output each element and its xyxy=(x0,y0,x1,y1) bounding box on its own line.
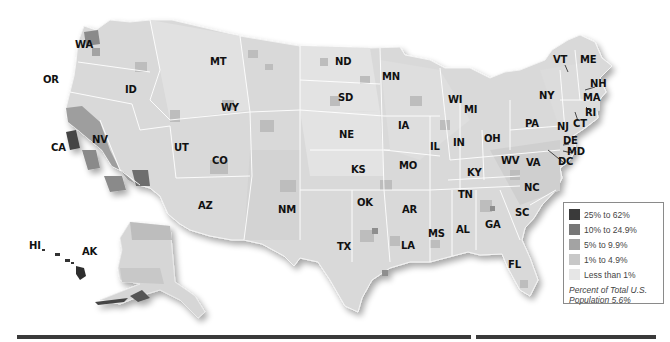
legend-item: 10% to 24.9% xyxy=(569,222,659,237)
state-label-ne: NE xyxy=(339,129,354,140)
state-label-ny: NY xyxy=(539,90,554,101)
state-label-mn: MN xyxy=(382,71,400,82)
state-label-va: VA xyxy=(526,157,540,168)
state-label-oh: OH xyxy=(484,133,500,144)
state-label-la: LA xyxy=(401,240,415,251)
legend-label: 25% to 62% xyxy=(584,210,630,220)
legend-swatch xyxy=(569,209,580,220)
state-label-sc: SC xyxy=(515,207,529,218)
state-label-wv: WV xyxy=(501,155,519,166)
state-label-mi: MI xyxy=(464,104,477,115)
legend-item: Less than 1% xyxy=(569,267,659,282)
legend-item: 1% to 4.9% xyxy=(569,252,659,267)
state-label-ok: OK xyxy=(357,197,373,208)
state-label-ca: CA xyxy=(51,142,66,153)
state-label-mt: MT xyxy=(210,56,226,67)
state-label-hi: HI xyxy=(29,240,41,251)
state-label-tx: TX xyxy=(337,241,351,252)
state-label-or: OR xyxy=(43,74,59,85)
hawaii xyxy=(42,249,86,280)
state-label-fl: FL xyxy=(508,259,521,270)
legend-label: Less than 1% xyxy=(584,270,636,280)
alaska xyxy=(95,222,205,318)
state-label-mo: MO xyxy=(399,160,417,171)
state-label-ky: KY xyxy=(467,167,482,178)
bottom-rule xyxy=(17,335,471,339)
state-label-tn: TN xyxy=(458,189,473,200)
state-label-nc: NC xyxy=(524,182,539,193)
state-label-vt: VT xyxy=(553,54,567,65)
state-label-in: IN xyxy=(453,137,465,148)
state-label-me: ME xyxy=(580,54,596,65)
legend-label: 10% to 24.9% xyxy=(584,225,637,235)
state-label-az: AZ xyxy=(198,200,213,211)
state-label-ks: KS xyxy=(351,164,366,175)
state-label-ma: MA xyxy=(583,92,600,103)
legend-note: Percent of Total U.S. Population 5.6% xyxy=(569,285,659,305)
state-label-ms: MS xyxy=(428,228,445,239)
state-label-ri: RI xyxy=(585,107,596,118)
legend: 25% to 62%10% to 24.9%5% to 9.9%1% to 4.… xyxy=(563,202,664,304)
legend-swatch xyxy=(569,254,580,265)
state-label-id: ID xyxy=(125,84,137,95)
legend-item: 5% to 9.9% xyxy=(569,237,659,252)
state-label-wa: WA xyxy=(75,39,93,50)
state-label-dc: DC xyxy=(558,156,573,167)
legend-label: 5% to 9.9% xyxy=(584,240,627,250)
legend-swatch xyxy=(569,224,580,235)
state-label-ia: IA xyxy=(398,120,409,131)
state-label-nd: ND xyxy=(335,56,351,67)
state-label-il: IL xyxy=(430,141,440,152)
state-label-de: DE xyxy=(563,135,578,146)
legend-swatch xyxy=(569,239,580,250)
state-label-al: AL xyxy=(456,224,470,235)
state-label-wy: WY xyxy=(221,102,239,113)
state-label-nj: NJ xyxy=(557,121,569,132)
state-label-ak: AK xyxy=(82,246,97,257)
state-label-sd: SD xyxy=(338,92,353,103)
state-label-ga: GA xyxy=(485,219,501,230)
legend-swatch xyxy=(569,269,580,280)
state-label-nv: NV xyxy=(92,134,108,145)
legend-item: 25% to 62% xyxy=(569,207,659,222)
state-label-ut: UT xyxy=(174,142,189,153)
state-label-nm: NM xyxy=(278,204,296,215)
state-label-co: CO xyxy=(212,155,227,166)
state-label-nh: NH xyxy=(590,78,606,89)
state-label-ar: AR xyxy=(402,204,417,215)
state-label-pa: PA xyxy=(525,118,539,129)
legend-label: 1% to 4.9% xyxy=(584,255,627,265)
state-label-wi: WI xyxy=(448,94,462,105)
state-label-ct: CT xyxy=(573,118,587,129)
bottom-rule-right xyxy=(476,335,656,339)
